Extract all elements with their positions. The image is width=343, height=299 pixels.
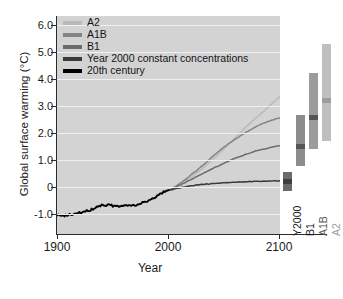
x-tick-mark bbox=[279, 234, 280, 239]
legend-label: A1B bbox=[87, 29, 107, 40]
legend-item-20th-century: 20th century bbox=[63, 65, 248, 76]
legend-item-year2000-constant: Year 2000 constant concentrations bbox=[63, 53, 248, 64]
legend-swatch-icon bbox=[63, 33, 82, 37]
range-bar-best-estimate bbox=[283, 179, 292, 184]
gridline bbox=[57, 79, 280, 80]
x-tick-label-1900: 1900 bbox=[37, 241, 77, 253]
range-bar-b1: B1 bbox=[296, 16, 305, 234]
gridline bbox=[57, 214, 280, 215]
x-tick-mark bbox=[168, 234, 169, 239]
legend-item-a1b: A1B bbox=[63, 29, 248, 40]
range-bar-label: A2 bbox=[331, 223, 341, 236]
legend-label: A2 bbox=[87, 17, 100, 28]
legend-label: B1 bbox=[87, 41, 100, 52]
legend-swatch-icon bbox=[63, 21, 82, 25]
series-line-20th-century bbox=[57, 190, 169, 216]
series-line-a1b bbox=[169, 118, 281, 190]
chart-legend: A2 A1B B1 Year 2000 constant concentrati… bbox=[63, 17, 248, 76]
y-axis-title: Global surface warming (°C) bbox=[18, 34, 30, 214]
gridline bbox=[57, 187, 280, 188]
legend-label: Year 2000 constant concentrations bbox=[87, 53, 248, 64]
legend-label: 20th century bbox=[87, 65, 145, 76]
range-bar-extent bbox=[296, 115, 305, 166]
chart-figure: Global surface warming (°C) 6.0 5.0 4.0 … bbox=[0, 0, 343, 299]
gridline bbox=[57, 133, 280, 134]
x-axis-line bbox=[57, 234, 327, 235]
range-bar-best-estimate bbox=[322, 98, 331, 103]
range-bars-group: Y2000B1A1BA2 bbox=[283, 16, 343, 234]
x-tick-mark bbox=[57, 234, 58, 239]
legend-swatch-icon bbox=[63, 69, 82, 73]
gridline bbox=[57, 160, 280, 161]
range-bar-a2: A2 bbox=[322, 16, 331, 234]
x-tick-label-2000: 2000 bbox=[148, 241, 188, 253]
legend-swatch-icon bbox=[63, 57, 82, 61]
legend-swatch-icon bbox=[63, 45, 82, 49]
legend-item-a2: A2 bbox=[63, 17, 248, 28]
range-bar-extent bbox=[322, 44, 331, 140]
range-bar-y2000: Y2000 bbox=[283, 16, 292, 234]
range-bar-a1b: A1B bbox=[309, 16, 318, 234]
range-bar-extent bbox=[309, 73, 318, 149]
legend-item-b1: B1 bbox=[63, 41, 248, 52]
x-tick-label-2100: 2100 bbox=[259, 241, 299, 253]
series-line-a2 bbox=[169, 97, 281, 191]
range-bar-best-estimate bbox=[309, 115, 318, 120]
range-bar-best-estimate bbox=[296, 144, 305, 149]
gridline bbox=[57, 106, 280, 107]
x-axis-title: Year bbox=[0, 261, 300, 275]
